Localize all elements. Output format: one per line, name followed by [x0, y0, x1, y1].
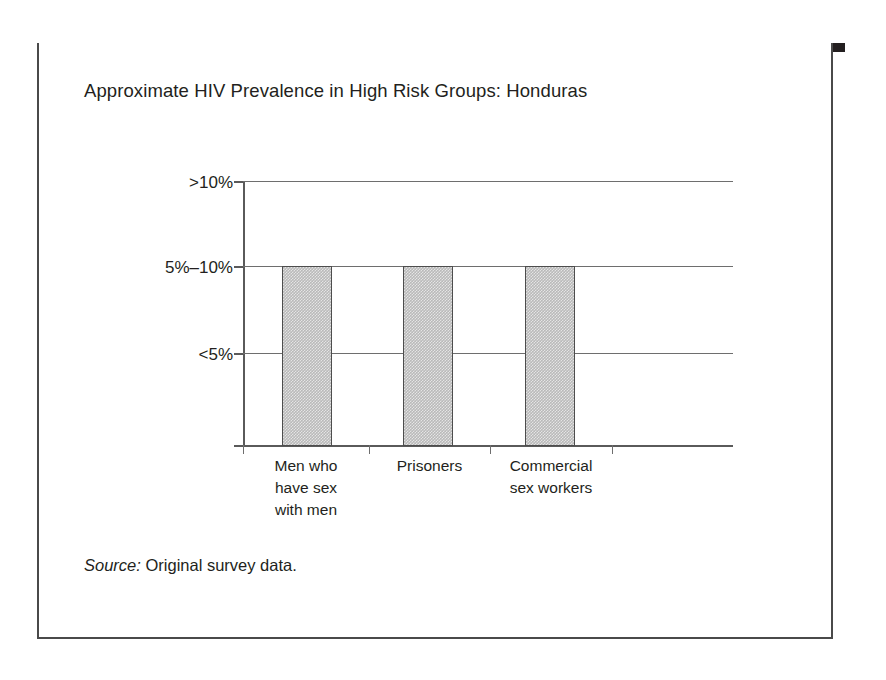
x-axis-category-label-1: Prisoners [369, 455, 490, 477]
y-tick-low [234, 353, 243, 355]
page-title: Approximate HIV Prevalence in High Risk … [84, 80, 587, 102]
y-axis-tick-label-mid: 5%–10% [120, 258, 233, 278]
y-tick-mid [234, 266, 243, 268]
x-tick-1 [369, 445, 370, 454]
x-axis-category-label-0: Men who have sex with men [243, 455, 369, 521]
source-note: Source: Original survey data. [84, 556, 297, 575]
x-tick-3 [612, 445, 613, 454]
figure-page: Approximate HIV Prevalence in High Risk … [0, 0, 886, 680]
x-tick-2 [490, 445, 491, 454]
bar-men-who-have-sex-with-men[interactable] [282, 266, 332, 446]
source-label: Source: [84, 556, 141, 574]
bar-prisoners[interactable] [403, 266, 453, 446]
x-axis-category-label-2: Commercial sex workers [490, 455, 612, 499]
y-axis-tick-label-high: >10% [120, 173, 233, 193]
y-tick-base [234, 445, 243, 447]
gridline-high [243, 181, 733, 182]
bar-commercial-sex-workers[interactable] [525, 266, 575, 446]
y-tick-high [234, 181, 243, 183]
plot-area [243, 181, 733, 447]
x-tick-0 [243, 445, 244, 454]
source-text: Original survey data. [141, 556, 297, 574]
y-axis-tick-label-low: <5% [120, 345, 233, 365]
